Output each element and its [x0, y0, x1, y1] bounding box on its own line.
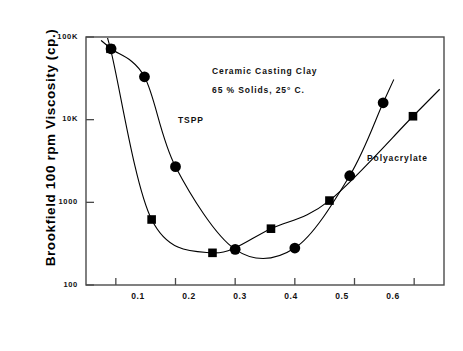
data-point-tspp	[147, 215, 156, 224]
data-point-tspp	[208, 249, 217, 258]
data-point-polyacrylate	[344, 170, 355, 181]
data-point-polyacrylate	[289, 243, 300, 254]
data-point-polyacrylate	[378, 97, 389, 108]
axes-frame	[86, 37, 444, 285]
plot-area	[0, 0, 463, 351]
data-point-polyacrylate	[106, 43, 117, 54]
chart-figure: Brookfield 100 rpm Viscosity (cp.) 100K …	[0, 0, 463, 351]
axis-ticks	[86, 37, 414, 285]
data-point-tspp	[325, 196, 334, 205]
data-markers	[106, 43, 418, 257]
data-point-polyacrylate	[230, 244, 241, 255]
data-point-tspp	[409, 112, 418, 121]
data-point-polyacrylate	[170, 161, 181, 172]
data-point-tspp	[267, 224, 276, 233]
data-point-polyacrylate	[139, 71, 150, 82]
